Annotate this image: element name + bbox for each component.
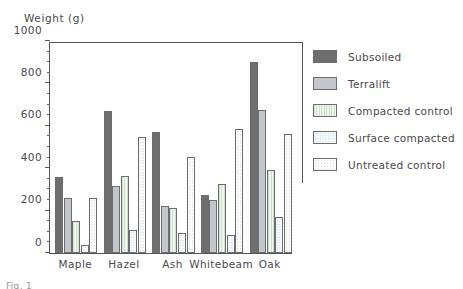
bar <box>64 198 72 253</box>
bar <box>227 235 235 253</box>
x-axis-label: Ash <box>162 258 183 270</box>
bar <box>275 217 283 253</box>
legend-swatch-icon <box>313 50 337 63</box>
bar <box>235 129 243 253</box>
bar <box>250 62 258 253</box>
y-axis-title: Weight (g) <box>24 12 85 24</box>
bar <box>81 245 89 253</box>
bar <box>129 230 137 253</box>
bar <box>201 195 209 253</box>
y-tick-label: 800 <box>21 66 42 78</box>
bar <box>104 111 112 253</box>
top-rule-extension <box>292 42 302 43</box>
bars-layer <box>50 43 292 253</box>
x-axis-label: Whitebeam <box>189 258 253 270</box>
bar-group <box>250 43 292 253</box>
legend-swatch-icon <box>313 77 337 90</box>
bar-group <box>201 43 243 253</box>
bar <box>218 184 226 253</box>
bar <box>121 176 129 253</box>
bar <box>55 177 63 253</box>
legend: SubsoiledTerraliftCompacted controlSurfa… <box>302 42 463 183</box>
x-axis-label: Maple <box>59 258 93 270</box>
bar <box>138 137 146 253</box>
bar <box>267 170 275 253</box>
legend-item[interactable]: Subsoiled <box>313 50 402 63</box>
bar <box>209 200 217 253</box>
y-tick-major <box>45 40 50 41</box>
legend-swatch-icon <box>313 131 337 144</box>
bar <box>187 157 195 253</box>
y-tick-label: 0 <box>35 236 42 248</box>
legend-item[interactable]: Untreated control <box>313 158 446 171</box>
legend-item-label: Subsoiled <box>348 51 402 63</box>
bar-group <box>55 43 97 253</box>
y-tick-label: 600 <box>21 108 42 120</box>
legend-item[interactable]: Terralift <box>313 77 390 90</box>
bar-group <box>152 43 194 253</box>
legend-item-label: Compacted control <box>348 105 453 117</box>
bar <box>258 110 266 253</box>
bar <box>112 186 120 253</box>
legend-item-label: Terralift <box>348 78 390 90</box>
figure-caption: Fig. 1 <box>6 281 32 289</box>
y-tick-label: 200 <box>21 193 42 205</box>
bar <box>89 198 97 253</box>
bar <box>161 206 169 253</box>
y-tick-label: 1000 <box>14 24 42 36</box>
x-axis-label: Hazel <box>108 258 139 270</box>
bar <box>169 208 177 253</box>
y-tick-label: 400 <box>21 151 42 163</box>
x-axis-label: Oak <box>259 258 281 270</box>
bar-group <box>104 43 146 253</box>
legend-item[interactable]: Compacted control <box>313 104 453 117</box>
bar <box>152 132 160 253</box>
legend-swatch-icon <box>313 158 337 171</box>
bar <box>178 233 186 253</box>
legend-item-label: Untreated control <box>348 159 446 171</box>
bar <box>72 221 80 253</box>
legend-swatch-icon <box>313 104 337 117</box>
legend-item-label: Surface compacted <box>348 132 455 144</box>
plot-area: 02004006008001000 <box>49 42 292 254</box>
bar <box>284 134 292 253</box>
legend-item[interactable]: Surface compacted <box>313 131 455 144</box>
bar-chart: Weight (g) 02004006008001000 MapleHazelA… <box>0 0 463 289</box>
